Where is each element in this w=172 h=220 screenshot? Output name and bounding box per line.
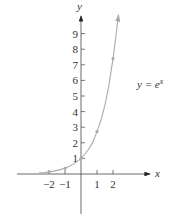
exponential-curve <box>39 15 119 173</box>
y-ticks <box>81 34 85 159</box>
function-label: y = ex <box>136 77 164 90</box>
y-tick-label: 3 <box>73 121 79 133</box>
y-tick-label: 2 <box>73 137 79 149</box>
y-tick-label: 8 <box>73 43 79 55</box>
x-tick-label: −2 <box>43 178 55 190</box>
y-axis-label: y <box>76 0 82 12</box>
y-tick-label: 9 <box>73 28 79 40</box>
y-tick-label: 5 <box>73 90 79 102</box>
x-tick-label: −1 <box>59 178 71 190</box>
x-axis-label: x <box>154 167 160 179</box>
x-tick-label: 1 <box>94 178 100 190</box>
x-tick-label: 2 <box>110 178 116 190</box>
y-tick-label: 6 <box>73 74 79 86</box>
y-tick-label: 4 <box>73 106 79 118</box>
exponential-graph: −2 −1 1 2 1 2 3 4 5 6 7 8 9 x y y = ex <box>0 0 172 220</box>
y-tick-label: 7 <box>73 59 79 71</box>
